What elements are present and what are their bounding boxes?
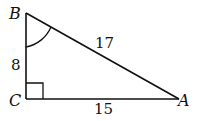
right-angle-marker bbox=[26, 83, 43, 99]
vertex-label-c: C bbox=[9, 91, 21, 110]
angle-b-arc bbox=[26, 27, 51, 47]
side-ab bbox=[26, 13, 179, 99]
side-label-bc: 8 bbox=[11, 56, 21, 74]
vertex-label-a: A bbox=[176, 91, 190, 110]
vertex-label-b: B bbox=[8, 4, 21, 23]
right-triangle-diagram: B C A 8 15 17 bbox=[0, 0, 199, 121]
side-label-ab: 17 bbox=[95, 34, 114, 52]
side-label-ca: 15 bbox=[94, 100, 113, 118]
